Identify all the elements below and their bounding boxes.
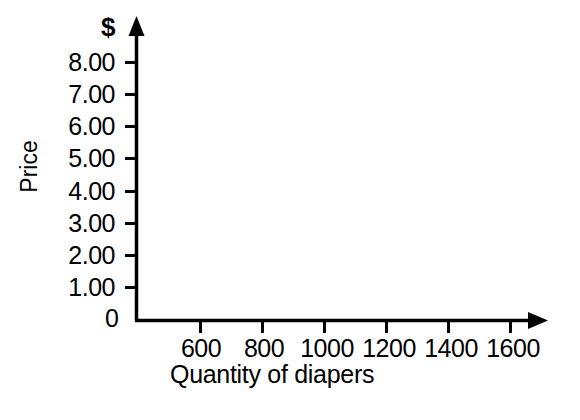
y-axis-title: Price	[18, 122, 41, 212]
chart-container: $ Price 8.00 7.00 6.00 5.00 4.00 3.00 2.…	[0, 0, 580, 420]
y-tick-label-3: 3.00	[45, 211, 115, 236]
x-tick-label-1000: 1000	[300, 336, 354, 361]
x-tick-label-1600: 1600	[486, 336, 540, 361]
origin-label: 0	[105, 306, 119, 331]
y-tick-label-7: 7.00	[45, 82, 115, 107]
plot-area	[137, 20, 547, 320]
y-tick-label-1: 1.00	[45, 275, 115, 300]
x-tick-label-1200: 1200	[362, 336, 416, 361]
y-tick-label-8: 8.00	[45, 50, 115, 75]
x-tick-label-1400: 1400	[424, 336, 478, 361]
x-tick-label-600: 600	[181, 336, 221, 361]
y-axis-unit-label: $	[101, 14, 115, 40]
x-axis-title: Quantity of diapers	[170, 362, 374, 387]
y-tick-label-5: 5.00	[45, 146, 115, 171]
y-tick-label-4: 4.00	[45, 179, 115, 204]
y-tick-label-2: 2.00	[45, 243, 115, 268]
x-tick-label-800: 800	[244, 336, 284, 361]
y-tick-label-6: 6.00	[45, 114, 115, 139]
